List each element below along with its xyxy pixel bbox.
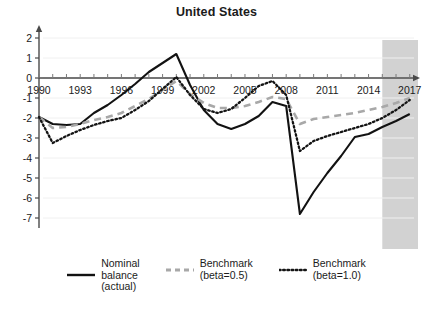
y-tick-label: 0 [26,72,32,84]
legend-entry[interactable]: Benchmark (beta=1.0) [279,258,366,281]
y-tick-label: -2 [23,112,32,124]
legend-swatch-dotted-icon [279,265,307,275]
line-chart-svg: 210-1-2-3-4-5-6-719901993199619992002200… [0,24,433,249]
legend-label: Benchmark (beta=1.0) [313,258,366,281]
legend-swatch-solid-icon [67,270,95,280]
plot-area: 210-1-2-3-4-5-6-719901993199619992002200… [0,24,433,249]
legend-entry[interactable]: Nominal balance (actual) [67,258,140,293]
y-tick-label: -5 [23,172,32,184]
legend-label: Benchmark (beta=0.5) [200,258,253,281]
y-tick-label: 2 [26,32,32,44]
chart-figure: United States 210-1-2-3-4-5-6-7199019931… [0,0,433,310]
chart-legend: Nominal balance (actual)Benchmark (beta=… [0,258,433,293]
x-tick-label: 2014 [357,84,381,96]
y-tick-label: -7 [23,212,32,224]
x-tick-label: 2017 [398,84,422,96]
x-tick-label: 2005 [233,84,257,96]
series-line-2 [39,81,410,128]
y-tick-label: -4 [23,152,32,164]
y-tick-label: -3 [23,132,32,144]
x-tick-label: 1993 [69,84,93,96]
y-axis-arrow-icon [36,25,42,32]
chart-title: United States [0,5,433,19]
x-tick-label: 1990 [27,84,51,96]
y-tick-label: 1 [26,52,32,64]
series-line-3 [39,77,410,151]
legend-swatch-dashed-icon [166,265,194,275]
y-tick-label: -6 [23,192,32,204]
legend-label: Nominal balance (actual) [101,258,140,293]
legend-entry[interactable]: Benchmark (beta=0.5) [166,258,253,281]
x-tick-label: 2011 [316,84,339,96]
